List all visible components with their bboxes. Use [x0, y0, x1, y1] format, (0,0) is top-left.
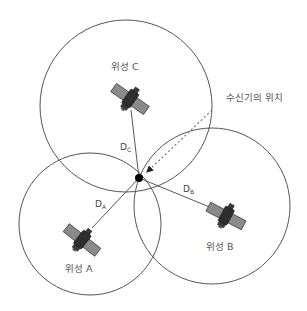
- satellite-b-label: 위성 B: [206, 241, 234, 252]
- satellite-a-icon: [58, 217, 106, 263]
- distance-label-a: DA: [95, 199, 107, 210]
- receiver-label: 수신기의 위치: [226, 92, 283, 103]
- satellite-b-icon: [202, 195, 250, 237]
- distance-label-c: DC: [120, 142, 131, 153]
- distance-line-c: [131, 110, 139, 178]
- receiver-pointer-arrow: [147, 110, 212, 172]
- satellite-c-icon: [106, 77, 154, 122]
- distance-line-b: [139, 178, 212, 208]
- trilateration-diagram: 위성 C 위성 A 위성 B 수신기의 위치 DC DA DB: [0, 0, 307, 311]
- distance-label-b: DB: [183, 184, 194, 195]
- satellite-a-label: 위성 A: [65, 263, 93, 274]
- satellite-c-label: 위성 C: [111, 61, 139, 72]
- receiver-dot: [135, 174, 143, 182]
